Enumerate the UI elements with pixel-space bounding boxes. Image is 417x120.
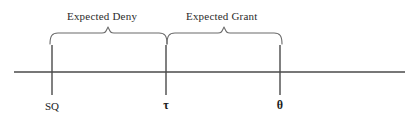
number-line-figure: Expected Deny Expected Grant SQ τ θ: [0, 0, 417, 120]
point-label-theta: θ: [270, 99, 290, 111]
region-label-expected-grant: Expected Grant: [186, 10, 258, 23]
point-label-tau: τ: [156, 99, 176, 111]
brace-expected-deny: [50, 27, 167, 44]
brace-expected-grant: [167, 27, 282, 44]
region-label-expected-deny: Expected Deny: [67, 10, 137, 23]
point-label-sq: SQ: [42, 100, 62, 112]
